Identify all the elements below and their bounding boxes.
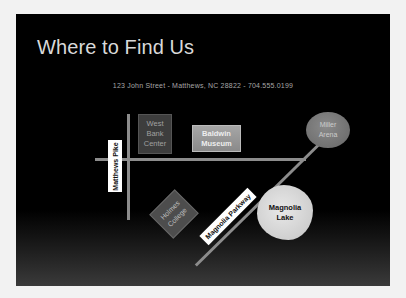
west-bank-line1: West	[144, 119, 167, 129]
landmark-holmes-college: Holmes College	[149, 189, 198, 238]
road-matthews-pike	[127, 114, 130, 220]
west-bank-line2: Bank	[144, 129, 167, 139]
west-bank-line3: Center	[144, 139, 167, 149]
matthews-pike-label-text: Matthews Pike	[112, 142, 119, 190]
baldwin-line1: Baldwin	[201, 129, 231, 139]
baldwin-line2: Museum	[201, 139, 231, 149]
matthews-pike-label: Matthews Pike	[108, 140, 122, 192]
miller-line2: Arena	[319, 130, 338, 140]
lake-line1: Magnolia	[269, 203, 302, 213]
landmark-west-bank-center: West Bank Center	[138, 114, 172, 154]
slide-title: Where to Find Us	[37, 36, 194, 59]
miller-line1: Miller	[319, 120, 338, 130]
road-horizontal	[95, 158, 306, 161]
landmark-magnolia-lake: Magnolia Lake	[257, 185, 313, 240]
slide: Where to Find Us 123 John Street - Matth…	[16, 14, 390, 286]
landmark-baldwin-museum: Baldwin Museum	[192, 125, 241, 152]
lake-line2: Lake	[269, 213, 302, 223]
landmark-miller-arena: Miller Arena	[306, 112, 350, 148]
magnolia-parkway-label: Magnolia Parkway	[199, 188, 256, 245]
address-line: 123 John Street - Matthews, NC 28822 - 7…	[16, 82, 390, 89]
